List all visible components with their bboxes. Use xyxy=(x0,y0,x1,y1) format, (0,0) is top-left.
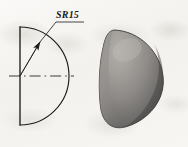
radius-leader-arrowhead xyxy=(20,42,40,76)
drawing-canvas xyxy=(0,0,188,147)
technical-drawing-figure: SR15 xyxy=(0,0,188,147)
semicircular-arc xyxy=(20,27,69,125)
orthographic-view xyxy=(9,22,84,125)
leader-elbow-and-shelf xyxy=(40,22,84,42)
pictorial-view xyxy=(99,30,163,128)
dimension-label-sr15: SR15 xyxy=(56,10,79,20)
